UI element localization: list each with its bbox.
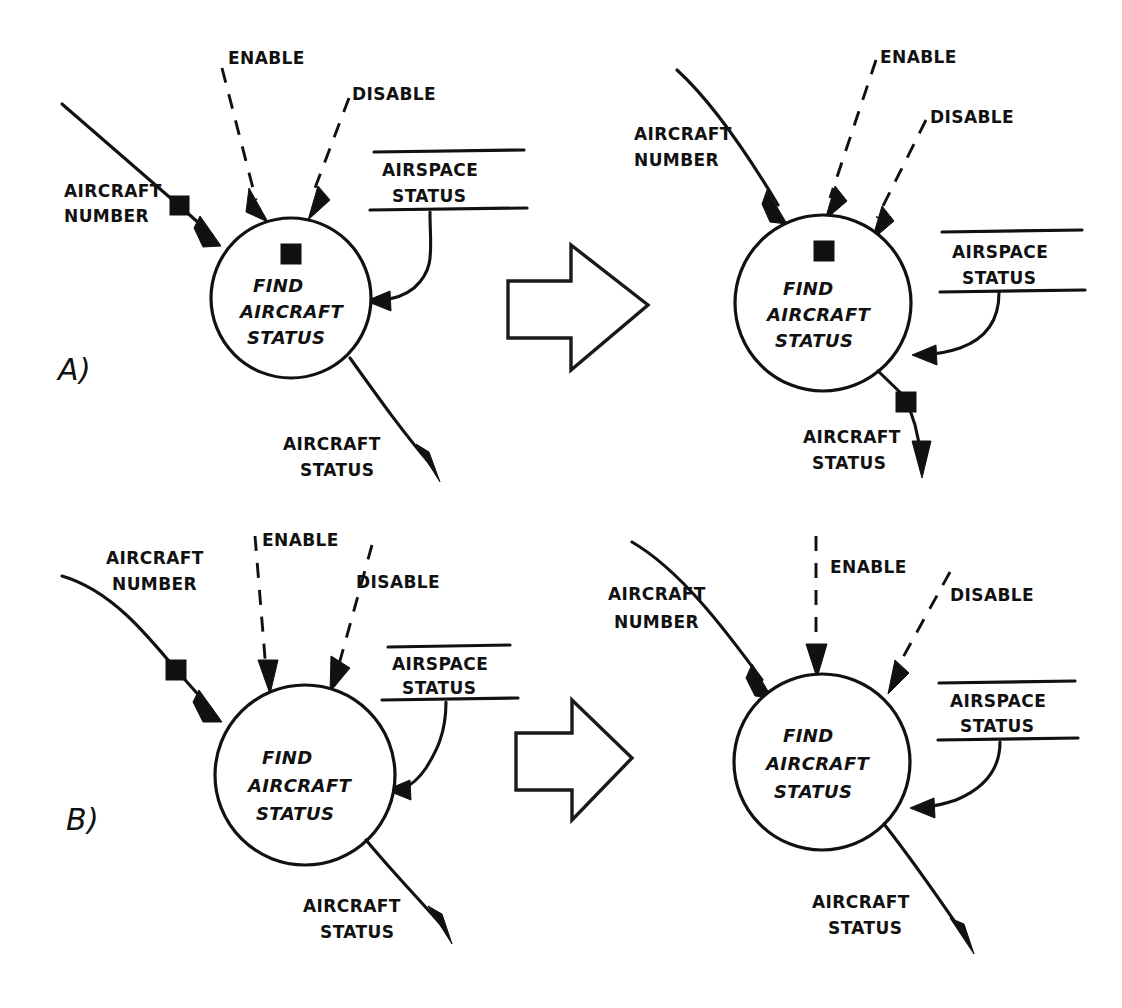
output-label-line1-a-after: AIRCRAFT	[803, 427, 901, 447]
datastore-flow-a-before	[382, 212, 431, 300]
disable-flow-a-after	[877, 120, 926, 218]
enable-label-a-before: ENABLE	[228, 48, 305, 68]
enable-flow-a-before	[222, 68, 256, 200]
datastore-label-line1-b-after: AIRSPACE	[950, 691, 1046, 711]
datastore-bottom-line-a-before	[370, 208, 527, 210]
datastore-top-line-b-before	[388, 645, 510, 647]
datastore-top-line-b-after	[939, 681, 1075, 683]
disable-label-b-before: DISABLE	[356, 572, 440, 592]
process-label-line1-a-after: FIND	[783, 278, 834, 299]
disable-flow-b-before	[338, 545, 372, 668]
aircraft-number-flow-b-after	[632, 542, 762, 680]
datastore-label-line2-b-before: STATUS	[402, 678, 476, 698]
transition-block-arrow-a	[508, 245, 648, 370]
arrowhead-output-a-after	[912, 441, 931, 478]
aircraft-number-label-line2-a-before: NUMBER	[64, 206, 149, 226]
arrowhead-disable-a-before	[308, 186, 330, 220]
process-label-line3-b-after: STATUS	[774, 781, 852, 802]
datastore-bottom-line-a-after	[940, 290, 1085, 292]
arrowhead-output-a-before	[416, 444, 440, 482]
token-on-aircraft-number-flow-a-before	[170, 196, 189, 215]
process-label-line2-b-before: AIRCRAFT	[246, 775, 353, 796]
disable-label-a-after: DISABLE	[930, 107, 1014, 127]
output-label-line1-b-after: AIRCRAFT	[812, 892, 910, 912]
arrowhead-datastore-a-after	[912, 345, 937, 365]
output-label-line1-a-before: AIRCRAFT	[283, 434, 381, 454]
arrowhead-aircraft-number-a-before	[194, 216, 221, 247]
aircraft-number-label-line1-b-after: AIRCRAFT	[608, 584, 706, 604]
disable-flow-b-after	[896, 572, 950, 670]
datastore-top-line-a-after	[942, 230, 1082, 232]
process-label-line1-b-after: FIND	[783, 725, 834, 746]
enable-flow-a-after	[830, 60, 876, 198]
arrowhead-output-b-after	[950, 918, 974, 954]
token-inside-process-a-after	[814, 241, 834, 261]
token-inside-process-a-before	[281, 244, 301, 264]
enable-flow-b-before	[255, 536, 266, 670]
arrowhead-disable-b-before	[330, 656, 350, 692]
token-on-aircraft-number-flow-b-before	[166, 660, 186, 680]
aircraft-number-label-line1-b-before: AIRCRAFT	[106, 548, 204, 568]
arrowhead-datastore-b-after	[910, 798, 935, 818]
transition-block-arrow-b	[516, 700, 632, 820]
enable-label-a-after: ENABLE	[880, 47, 957, 67]
aircraft-number-label-line2-b-after: NUMBER	[614, 612, 699, 632]
output-label-line1-b-before: AIRCRAFT	[303, 896, 401, 916]
aircraft-number-label-line2-a-after: NUMBER	[634, 150, 719, 170]
output-label-line2-a-before: STATUS	[300, 460, 374, 480]
aircraft-number-label-line2-b-before: NUMBER	[112, 574, 197, 594]
arrowhead-aircraft-number-a-after	[762, 190, 787, 224]
datastore-top-line-a-before	[374, 150, 524, 152]
process-label-line3-a-before: STATUS	[247, 327, 325, 348]
process-label-line2-a-before: AIRCRAFT	[238, 301, 345, 322]
datastore-label-line2-a-after: STATUS	[962, 268, 1036, 288]
disable-label-b-after: DISABLE	[950, 585, 1034, 605]
arrowhead-disable-b-after	[888, 660, 909, 694]
diagram-canvas: A) AIRCRAFT NUMBER ENABLE DISABLE AIRSPA…	[0, 0, 1122, 1008]
aircraft-number-flow-b-before	[62, 576, 212, 710]
panel-label-b: B)	[66, 802, 99, 837]
process-label-line1-b-before: FIND	[262, 747, 313, 768]
process-circle-a-before	[211, 218, 371, 378]
panel-b-after: AIRCRAFT NUMBER ENABLE DISABLE AIRSPACE …	[608, 536, 1078, 954]
datastore-label-line2-a-before: STATUS	[392, 186, 466, 206]
aircraft-number-label-line1-a-after: AIRCRAFT	[634, 124, 732, 144]
disable-flow-a-before	[312, 98, 349, 196]
output-label-line2-b-after: STATUS	[828, 918, 902, 938]
enable-label-b-before: ENABLE	[262, 530, 339, 550]
token-on-aircraft-status-output-a-after	[896, 392, 916, 412]
disable-label-a-before: DISABLE	[352, 84, 436, 104]
process-label-line3-b-before: STATUS	[256, 803, 334, 824]
arrowhead-aircraft-number-b-before	[193, 690, 222, 722]
output-label-line2-a-after: STATUS	[812, 453, 886, 473]
datastore-label-line2-b-after: STATUS	[960, 716, 1034, 736]
datastore-bottom-line-b-after	[938, 738, 1078, 740]
aircraft-number-label-line1-a-before: AIRCRAFT	[64, 181, 162, 201]
process-label-line2-b-after: AIRCRAFT	[764, 753, 871, 774]
process-label-line1-a-before: FIND	[253, 275, 304, 296]
datastore-label-line1-a-after: AIRSPACE	[952, 242, 1048, 262]
arrowhead-enable-a-before	[246, 188, 268, 222]
process-label-line2-a-after: AIRCRAFT	[765, 304, 872, 325]
arrowhead-output-b-before	[428, 906, 452, 944]
datastore-flow-a-after	[928, 293, 999, 354]
datastore-label-line1-b-before: AIRSPACE	[392, 654, 488, 674]
datastore-bottom-line-b-before	[382, 698, 518, 700]
panel-a-after: AIRCRAFT NUMBER ENABLE DISABLE AIRSPACE …	[634, 47, 1085, 478]
process-label-line3-a-after: STATUS	[775, 330, 853, 351]
datastore-flow-b-before	[402, 702, 446, 789]
panel-a-before: A) AIRCRAFT NUMBER ENABLE DISABLE AIRSPA…	[56, 48, 527, 482]
panel-b-before: B) AIRCRAFT NUMBER ENABLE DISABLE AIRSPA…	[62, 530, 518, 944]
panel-label-a: A)	[56, 352, 91, 387]
datastore-label-line1-a-before: AIRSPACE	[382, 160, 478, 180]
output-label-line2-b-before: STATUS	[320, 922, 394, 942]
enable-label-b-after: ENABLE	[830, 557, 907, 577]
datastore-flow-b-after	[926, 742, 1000, 807]
